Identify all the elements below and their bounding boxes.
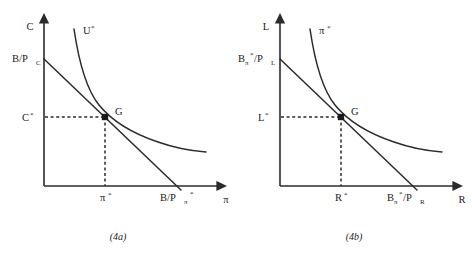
x-optimum-star-4b: * [344, 191, 348, 199]
y-intercept-label-4b: B π * /P L [238, 51, 275, 67]
y-intercept-label-4a: B/P C [12, 53, 41, 67]
panel-4a: C π U * B/P C C * π * [0, 0, 236, 254]
x-axis-label-4a: π [223, 194, 229, 205]
x-intercept-tail-4b: /P [403, 192, 412, 203]
curve-label-text-4b: π [319, 25, 325, 36]
x-intercept-text-4a: B/P [160, 192, 176, 203]
y-intercept-text-4a: B/P [12, 53, 28, 64]
y-optimum-text-4a: C [22, 112, 29, 123]
panel-4b: L R π * B π * /P L L * R [236, 0, 472, 254]
x-intercept-tail-sub-4b: R [420, 198, 425, 206]
chart-4b: L R π * B π * /P L L * R [236, 0, 472, 254]
indifference-curve-4b [310, 29, 442, 152]
y-intercept-sub-4b: π [245, 59, 249, 67]
caption-4b: (4b) [346, 231, 363, 243]
x-intercept-text-4b: B [387, 192, 394, 203]
budget-line-4b [280, 59, 417, 190]
curve-label-text-4a: U [83, 25, 91, 36]
figure-container: C π U * B/P C C * π * [0, 0, 472, 254]
x-intercept-sub-4a: π [184, 198, 188, 206]
x-intercept-star-4a: * [190, 190, 194, 198]
x-intercept-label-4a: B/P π * [160, 190, 194, 206]
x-intercept-label-4b: B π * /P R [387, 190, 425, 206]
y-intercept-tail-4b: /P [254, 53, 263, 64]
y-optimum-star-4a: * [30, 111, 34, 119]
x-optimum-label-4a: π * [100, 191, 112, 203]
x-optimum-star-4a: * [108, 191, 112, 199]
x-optimum-label-4b: R * [335, 191, 348, 203]
curve-label-star-4b: * [327, 24, 331, 32]
y-intercept-tail-sub-4b: L [271, 59, 275, 67]
y-axis-label-4a: C [26, 21, 33, 32]
x-intercept-sub-4b: π [394, 198, 398, 206]
optimum-point-4b [338, 114, 344, 120]
x-optimum-text-4a: π [100, 192, 106, 203]
curve-label-4a: U * [83, 24, 95, 36]
caption-4a: (4a) [110, 231, 127, 243]
y-optimum-text-4b: L [258, 112, 264, 123]
y-optimum-label-4a: C * [22, 111, 34, 123]
y-intercept-text-4b: B [238, 53, 245, 64]
curve-label-star-4a: * [91, 24, 95, 32]
y-axis-label-4b: L [263, 21, 269, 32]
x-axis-label-4b: R [458, 194, 465, 205]
x-optimum-text-4b: R [335, 192, 342, 203]
curve-label-4b: π * [319, 24, 331, 36]
chart-4a: C π U * B/P C C * π * [0, 0, 236, 254]
y-intercept-sub-4a: C [36, 59, 41, 67]
indifference-curve-4a [74, 29, 206, 152]
budget-line-4a [44, 59, 181, 190]
optimum-point-4a [102, 114, 108, 120]
y-optimum-star-4b: * [265, 111, 269, 119]
y-optimum-label-4b: L * [258, 111, 269, 123]
optimum-label-4a: G [115, 106, 123, 117]
optimum-label-4b: G [351, 106, 359, 117]
